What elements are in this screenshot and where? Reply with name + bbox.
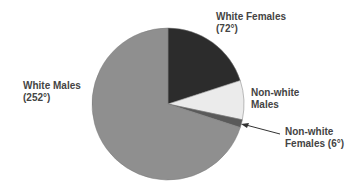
pie-chart: White Females (72°) Non-white Males Non-…: [0, 0, 360, 187]
arrow-line: [246, 125, 280, 134]
label-white-males: White Males (252°): [23, 80, 84, 103]
label-white-females: White Females (72°): [216, 11, 289, 34]
label-non-white-males: Non-white Males: [251, 87, 302, 110]
arrow-head: [241, 123, 249, 128]
arrow-annotation: [241, 123, 280, 134]
label-non-white-females: Non-white Females (6°): [285, 126, 344, 149]
